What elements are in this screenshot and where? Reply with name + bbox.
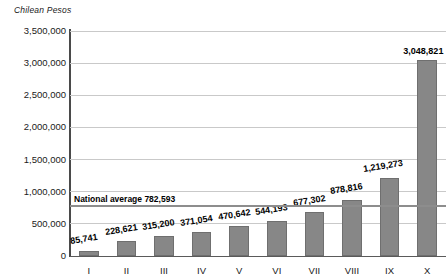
y-tick-label: 0 <box>0 250 66 261</box>
y-tick-label: 1,500,000 <box>0 154 66 165</box>
bar[interactable] <box>267 221 287 256</box>
gridline <box>70 95 446 96</box>
x-tick-label: IV <box>183 265 221 276</box>
national-average-line <box>70 205 446 207</box>
bar-value-label: 228,621 <box>104 222 138 237</box>
y-tick-label: 3,500,000 <box>0 25 66 36</box>
bar[interactable] <box>192 232 212 256</box>
y-axis-unit-title: Chilean Pesos <box>14 5 71 15</box>
x-tick-label: II <box>108 265 146 276</box>
x-tick-label: VII <box>296 265 334 276</box>
x-tick-label: VI <box>258 265 296 276</box>
x-tick-label: III <box>145 265 183 276</box>
bar[interactable] <box>417 60 437 256</box>
plot-area: 0500,0001,000,0001,500,0002,000,0002,500… <box>70 31 446 256</box>
gridline <box>70 127 446 128</box>
bar-value-label: 371,054 <box>179 213 213 228</box>
bar-value-label: 315,200 <box>142 217 176 232</box>
y-tick-label: 500,000 <box>0 218 66 229</box>
bar[interactable] <box>305 212 325 256</box>
bar[interactable] <box>380 178 400 256</box>
gridline <box>70 63 446 64</box>
bar-value-label: 3,048,821 <box>403 46 443 56</box>
bar[interactable] <box>154 236 174 256</box>
gridline <box>70 31 446 32</box>
x-tick-label: X <box>408 265 446 276</box>
x-tick-label: V <box>220 265 258 276</box>
x-tick-label: VIII <box>333 265 371 276</box>
y-tick-label: 1,000,000 <box>0 186 66 197</box>
bar[interactable] <box>79 251 99 257</box>
bar[interactable] <box>342 200 362 256</box>
x-tick-label: I <box>70 265 108 276</box>
bar[interactable] <box>229 226 249 256</box>
bar[interactable] <box>117 241 137 256</box>
bar-value-label: 470,642 <box>217 207 251 222</box>
bar-value-label: 85,741 <box>69 232 98 246</box>
y-tick-label: 2,000,000 <box>0 121 66 132</box>
national-average-label: National average 782,593 <box>74 194 175 204</box>
y-tick-label: 3,000,000 <box>0 57 66 68</box>
bar-value-label: 878,816 <box>330 181 364 196</box>
bar-chart: Chilean Pesos 0500,0001,000,0001,500,000… <box>0 0 446 278</box>
y-tick-label: 2,500,000 <box>0 89 66 100</box>
x-tick-label: IX <box>371 265 409 276</box>
